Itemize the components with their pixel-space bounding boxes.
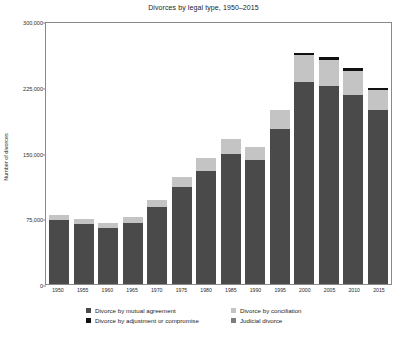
bar-segment[interactable] [196,171,216,284]
x-axis-tick-label: 1980 [196,287,216,297]
y-axis-tick-label: 225,000 [23,86,43,92]
y-axis-label: Number of divorces [3,133,9,181]
bar-column[interactable] [245,23,265,284]
x-axis-tick-label: 1975 [171,287,191,297]
bar-segment[interactable] [319,86,339,284]
legend-item[interactable]: Divorce by adjustment or compromise [86,317,199,324]
x-axis-tick-label: 1970 [147,287,167,297]
bar-column[interactable] [49,23,69,284]
legend-item-label: Divorce by adjustment or compromise [95,317,199,324]
bar-segment[interactable] [294,55,314,81]
bar-segment[interactable] [245,160,265,284]
x-axis-tick-label: 1990 [246,287,266,297]
bar-column[interactable] [221,23,241,284]
bar-column[interactable] [98,23,118,284]
bar-segment[interactable] [49,220,69,284]
y-axis-tick-label: 75,000 [26,217,43,223]
legend-item[interactable]: Divorce by mutual agreement [86,307,176,314]
x-axis-tick-label: 1960 [97,287,117,297]
bar-segment[interactable] [270,129,290,284]
bar-column[interactable] [172,23,192,284]
bar-segment[interactable] [368,90,388,109]
legend-item-label: Divorce by conciliation [240,307,302,314]
bar-column[interactable] [123,23,143,284]
x-axis-tick-label: 1985 [221,287,241,297]
bar-segment[interactable] [221,154,241,284]
bar-segment[interactable] [319,60,339,85]
bar-segment[interactable] [270,110,290,129]
bar-segment[interactable] [343,71,363,95]
bar-segment[interactable] [221,139,241,154]
bar-column[interactable] [319,23,339,284]
x-axis-ticks: 1950195519601965197019751980198519901995… [45,287,392,297]
chart-figure: Divorces by legal type, 1950–2015 Number… [0,0,407,346]
bar-segment[interactable] [147,207,167,284]
x-axis-tick-label: 1965 [122,287,142,297]
bar-column[interactable] [368,23,388,284]
legend-swatch-icon [86,308,91,313]
chart-legend: Divorce by mutual agreementDivorce by ad… [45,306,392,332]
y-axis-tick-label: 300,000 [23,20,43,26]
bar-column[interactable] [270,23,290,284]
bar-segment[interactable] [245,147,265,160]
bar-segment[interactable] [294,82,314,285]
x-axis-tick-label: 1955 [73,287,93,297]
bar-segment[interactable] [172,187,192,284]
plot-area: 075,000150,000225,000300,000 [45,22,392,285]
bar-segment[interactable] [172,177,192,187]
y-axis-tick-label: 150,000 [23,152,43,158]
bar-segment[interactable] [196,158,216,171]
bar-segment[interactable] [74,224,94,284]
bar-column[interactable] [343,23,363,284]
bar-segment[interactable] [343,95,363,284]
x-axis-tick-label: 2015 [369,287,389,297]
bar-series-group [46,23,391,284]
x-axis-tick-label: 2010 [344,287,364,297]
legend-item-label: Divorce by mutual agreement [95,307,176,314]
legend-item[interactable]: Judicial divorce [231,317,282,324]
bar-segment[interactable] [147,200,167,207]
legend-swatch-icon [231,318,236,323]
x-axis-tick-label: 1950 [48,287,68,297]
bar-column[interactable] [294,23,314,284]
bar-segment[interactable] [368,110,388,284]
legend-swatch-icon [231,308,236,313]
x-axis-tick-label: 2005 [320,287,340,297]
legend-item-label: Judicial divorce [240,317,282,324]
bar-column[interactable] [147,23,167,284]
bar-segment[interactable] [123,223,143,284]
bar-segment[interactable] [98,228,118,284]
chart-title: Divorces by legal type, 1950–2015 [0,4,407,11]
legend-swatch-icon [86,318,91,323]
legend-item[interactable]: Divorce by conciliation [231,307,302,314]
bar-column[interactable] [74,23,94,284]
x-axis-tick-label: 2000 [295,287,315,297]
bar-column[interactable] [196,23,216,284]
x-axis-tick-label: 1995 [270,287,290,297]
